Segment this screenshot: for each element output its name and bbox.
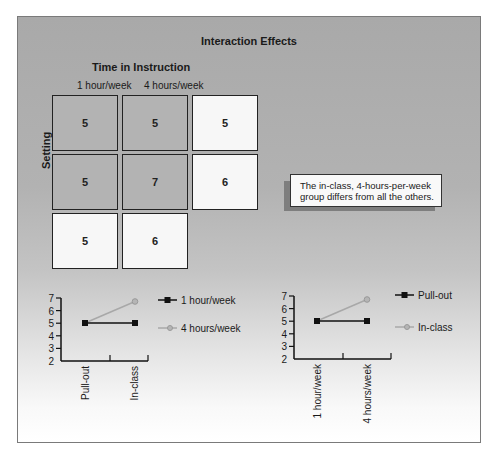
marker-square-icon	[132, 320, 138, 326]
y-tick-label: 7	[281, 291, 287, 302]
y-tick-label: 6	[281, 304, 287, 315]
y-tick-label: 2	[281, 354, 287, 365]
series-line-in-class	[317, 300, 367, 322]
y-tick-label: 6	[48, 306, 54, 317]
y-tick-label: 3	[48, 343, 54, 354]
marker-square-icon	[314, 318, 320, 324]
y-tick-label: 4	[48, 331, 54, 342]
x-tick-label-pull-out: Pull-out	[80, 366, 91, 400]
legend: 1 hour/week 4 hours/week	[158, 295, 241, 334]
chart-time-x: 7 6 5 4 3 2 1 hour/week 4 hours/week Pul…	[281, 290, 452, 423]
interaction-charts: 7 6 5 4 3 2 Pull-out In-class 1 hour/wee…	[18, 17, 482, 444]
legend-square-icon	[402, 292, 408, 298]
legend-square-icon	[165, 297, 171, 303]
y-tick-label: 5	[48, 318, 54, 329]
marker-square-icon	[364, 318, 370, 324]
legend: Pull-out In-class	[395, 290, 452, 333]
legend-label-4-hours: 4 hours/week	[181, 323, 241, 334]
legend-circle-icon	[168, 326, 173, 331]
y-tick-label: 5	[281, 316, 287, 327]
legend-label-in-class: In-class	[418, 322, 452, 333]
marker-circle-icon	[132, 299, 138, 305]
y-tick-label: 2	[48, 356, 54, 367]
figure-panel: Interaction Effects Time in Instruction …	[17, 16, 481, 443]
legend-label-pull-out: Pull-out	[418, 290, 452, 301]
y-tick-label: 3	[281, 341, 287, 352]
y-tick-label: 4	[281, 329, 287, 340]
marker-circle-icon	[364, 297, 370, 303]
x-tick-label-1-hour: 1 hour/week	[312, 363, 323, 418]
legend-circle-icon	[405, 325, 410, 330]
series-line-4-hours	[85, 302, 135, 324]
y-tick-label: 7	[48, 293, 54, 304]
chart-setting-x: 7 6 5 4 3 2 Pull-out In-class 1 hour/wee…	[48, 293, 241, 400]
marker-square-icon	[82, 320, 88, 326]
x-tick-label-in-class: In-class	[129, 366, 140, 400]
legend-label-1-hour: 1 hour/week	[181, 295, 236, 306]
x-tick-label-4-hours: 4 hours/week	[362, 363, 373, 423]
